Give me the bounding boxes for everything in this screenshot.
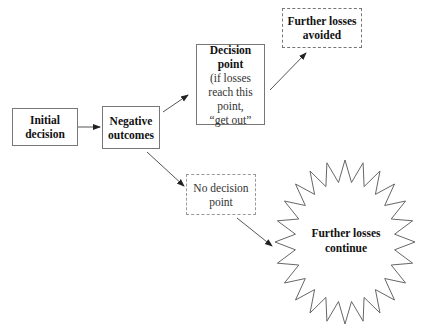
node-note: “get out” <box>210 113 252 127</box>
node-label: Further losses <box>300 226 392 241</box>
node-label: Initial <box>30 113 60 127</box>
node-label: Negative <box>110 114 153 128</box>
node-title: Decision <box>210 43 252 57</box>
arrow-negative-to-no-decision <box>147 152 184 186</box>
node-note: point, <box>217 99 244 113</box>
node-label: outcomes <box>108 128 154 142</box>
node-no-decision-point: No decision point <box>186 174 256 215</box>
node-label: continue <box>300 241 392 256</box>
node-further-losses-avoided: Further losses avoided <box>282 8 362 48</box>
node-label: avoided <box>303 28 341 42</box>
node-label: decision <box>25 127 65 141</box>
node-further-losses-continue: Further losses continue <box>300 226 392 256</box>
node-negative-outcomes: Negative outcomes <box>102 106 160 149</box>
node-initial-decision: Initial decision <box>12 108 78 146</box>
node-title: point <box>218 57 244 71</box>
node-note: (if losses <box>210 71 251 85</box>
node-decision-point: Decision point (if losses reach this poi… <box>196 44 265 125</box>
arrow-decision-to-avoided <box>270 53 306 90</box>
arrow-no-decision-to-continue <box>237 218 272 246</box>
node-label: Further losses <box>287 14 356 28</box>
arrow-negative-to-decision-point <box>163 95 188 112</box>
node-label: point <box>209 195 233 209</box>
node-label: No decision <box>193 181 248 195</box>
node-note: reach this <box>208 85 252 99</box>
